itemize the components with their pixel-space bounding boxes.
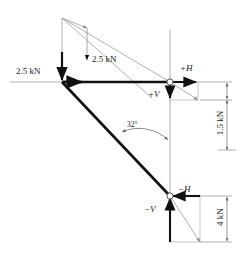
structural-members	[62, 82, 170, 196]
bottom-resultant-arrow	[170, 196, 200, 242]
force-diagram: 2.5 kN 2.5 kN +H +V 32° −H −V 1.5 kN 4 k…	[0, 0, 241, 256]
top-node-group	[167, 79, 198, 100]
top-horizontal-reaction-label: +H	[180, 63, 193, 73]
bottom-vertical-reaction-label: −V	[144, 204, 156, 214]
top-node-marker	[167, 79, 173, 85]
top-vertical-reaction-label: +V	[148, 89, 160, 99]
inclined-member	[62, 82, 170, 196]
angle-arc	[122, 128, 168, 140]
diagram-canvas	[0, 0, 241, 256]
upper-dimension-label: 1.5 kN	[215, 103, 225, 143]
applied-load-inner-label: 2.5 kN	[92, 54, 117, 64]
applied-load-left-label: 2.5 kN	[16, 66, 41, 76]
bottom-node-marker	[167, 193, 173, 199]
bottom-node-group	[167, 193, 200, 242]
construction-ray-outer	[62, 18, 170, 82]
construction-ray-short	[62, 18, 87, 28]
bottom-horizontal-reaction-label: −H	[178, 184, 191, 194]
lower-dimension-label: 4 kN	[215, 197, 225, 237]
top-resultant-arrow	[170, 82, 198, 100]
angle-label: 32°	[127, 120, 138, 129]
angle-annotation-group	[122, 128, 168, 140]
